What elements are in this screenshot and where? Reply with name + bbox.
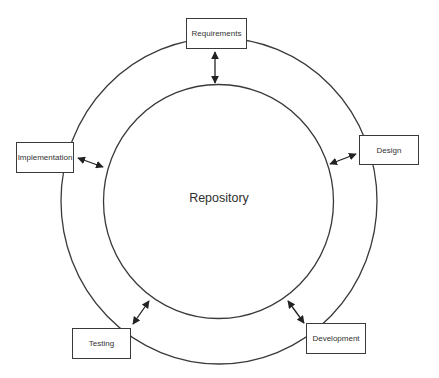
repository-label: Repository	[169, 191, 269, 205]
node-development-label: Development	[312, 334, 359, 343]
node-design: Design	[359, 135, 419, 165]
node-requirements: Requirements	[186, 18, 247, 49]
arrow-implementation-repository	[78, 158, 103, 167]
node-implementation: Implementation	[16, 142, 74, 173]
node-design-label: Design	[377, 146, 402, 155]
node-requirements-label: Requirements	[192, 29, 242, 38]
node-testing-label: Testing	[89, 339, 114, 348]
arrow-development-repository	[288, 301, 304, 323]
arrow-design-repository	[330, 154, 356, 164]
node-development: Development	[306, 323, 366, 354]
cycle-diagram	[0, 0, 439, 378]
node-testing: Testing	[72, 328, 131, 359]
node-implementation-label: Implementation	[18, 153, 73, 162]
arrow-testing-repository	[133, 301, 149, 324]
